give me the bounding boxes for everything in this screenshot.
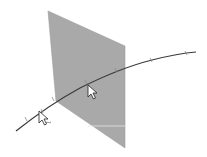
diagram-svg	[0, 0, 207, 157]
diagram-canvas: Plane intersecting a curve, with selecti…	[0, 0, 207, 157]
plane[interactable]	[48, 11, 125, 148]
cursor-curve-select-icon	[39, 111, 51, 125]
